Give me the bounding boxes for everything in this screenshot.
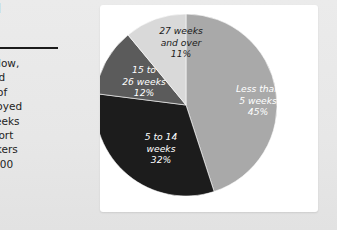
page-root: …yed …nt, …e is low, …loyed …ear of …mpl… — [0, 0, 337, 230]
article-text-column: …yed …nt, …e is low, …loyed …ear of …mpl… — [0, 0, 94, 230]
divider — [0, 47, 58, 49]
body-text: …e is low, …loyed …ear of …mployed …5 we… — [0, 56, 94, 171]
page-title: …yed …nt, — [0, 2, 94, 31]
pie-chart: Less than 5 weeks 45% 5 to 14 weeks 32% … — [100, 5, 318, 212]
pie-chart-svg — [100, 5, 318, 212]
chart-card: Less than 5 weeks 45% 5 to 14 weeks 32% … — [100, 5, 318, 212]
